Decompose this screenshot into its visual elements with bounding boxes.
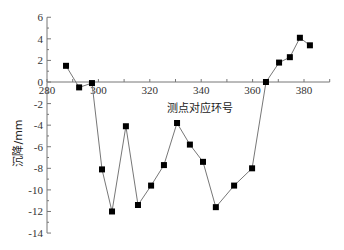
y-tick-label: -2 bbox=[34, 98, 43, 110]
x-tick-label: 320 bbox=[142, 84, 159, 96]
data-point-marker bbox=[135, 202, 141, 208]
x-tick-label: 360 bbox=[244, 84, 261, 96]
data-point-marker bbox=[63, 63, 69, 69]
y-tick-label: -12 bbox=[28, 205, 43, 217]
y-tick-label: 2 bbox=[38, 54, 44, 66]
settlement-chart: 6420-2-4-6-8-10-12-14 280300320340360380… bbox=[0, 0, 344, 250]
data-point-marker bbox=[123, 123, 129, 129]
y-tick-label: -4 bbox=[34, 119, 44, 131]
data-point-marker bbox=[174, 120, 180, 126]
data-point-marker bbox=[161, 162, 167, 168]
x-tick-label: 380 bbox=[296, 84, 313, 96]
data-point-marker bbox=[263, 79, 269, 85]
data-point-marker bbox=[213, 204, 219, 210]
data-point-marker bbox=[99, 166, 105, 172]
y-tick-label: -6 bbox=[34, 141, 44, 153]
data-point-marker bbox=[109, 208, 115, 214]
y-axis: 6420-2-4-6-8-10-12-14 bbox=[28, 11, 51, 239]
data-point-marker bbox=[76, 84, 82, 90]
y-tick-label: -14 bbox=[28, 227, 43, 239]
x-tick-label: 340 bbox=[193, 84, 210, 96]
y-tick-label: -10 bbox=[28, 184, 43, 196]
y-tick-label: 4 bbox=[38, 33, 44, 45]
x-axis: 280300320340360380 bbox=[39, 79, 330, 96]
data-point-marker bbox=[89, 80, 95, 86]
y-axis-title: 沉降/mm bbox=[11, 119, 25, 166]
data-point-marker bbox=[287, 54, 293, 60]
y-tick-label: -8 bbox=[34, 162, 44, 174]
data-point-marker bbox=[297, 35, 303, 41]
series-line bbox=[66, 38, 310, 212]
y-tick-label: 6 bbox=[38, 11, 44, 23]
data-point-marker bbox=[307, 42, 313, 48]
data-point-marker bbox=[148, 183, 154, 189]
data-point-marker bbox=[276, 60, 282, 66]
data-point-marker bbox=[231, 183, 237, 189]
data-point-marker bbox=[187, 142, 193, 148]
x-tick-label: 280 bbox=[39, 84, 56, 96]
x-axis-title: 测点对应环号 bbox=[167, 101, 233, 115]
data-point-marker bbox=[200, 159, 206, 165]
data-point-marker bbox=[249, 165, 255, 171]
data-series bbox=[63, 35, 313, 215]
